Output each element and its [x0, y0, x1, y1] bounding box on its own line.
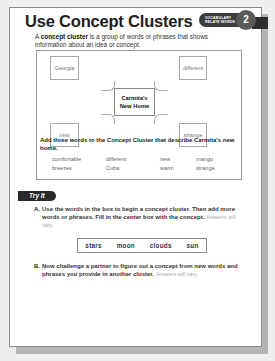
question-a-letter: A. [34, 205, 40, 213]
question-b-text: Now challenge a partner to figure out a … [42, 263, 238, 277]
try-it-heading: Try It [18, 191, 56, 201]
word-bank-item: warm [160, 165, 196, 171]
word-box-item: stars [85, 242, 102, 249]
word-bank-item: breezes [52, 165, 106, 171]
word-bank-item: comfortable [52, 156, 106, 162]
connector-line [154, 114, 168, 124]
word-bank-item: strange [196, 165, 236, 171]
word-bank-item: Cuba [106, 165, 160, 171]
question-b-letter: B. [34, 262, 40, 270]
word-box-item: sun [187, 242, 199, 249]
cluster-node: Georgia [50, 56, 79, 80]
connector-line [101, 114, 115, 124]
word-bank-item: mango [196, 156, 236, 162]
connector-line [154, 81, 168, 91]
cluster-center-node: Carmita's New Home [114, 88, 155, 116]
word-bank-item: new [160, 156, 196, 162]
center-line-2: New Home [115, 102, 154, 110]
page-title: Use Concept Clusters [25, 12, 192, 31]
word-box-item: moon [117, 242, 135, 249]
word-box: stars moon clouds sun [77, 238, 207, 253]
word-box-item: clouds [150, 242, 172, 249]
lesson-number-badge: 2 [236, 10, 256, 30]
question-b-note: Answers will vary. [156, 271, 198, 277]
cluster-node: different [179, 56, 207, 80]
question-b: B. Now challenge a partner to figure out… [34, 262, 239, 278]
intro-term: concept cluster [41, 33, 88, 40]
center-line-1: Carmita's [115, 94, 154, 102]
intro-text: A concept cluster is a group of words or… [35, 33, 235, 49]
word-bank-item: different [106, 156, 160, 162]
connector-line [101, 81, 115, 91]
question-a: A. Use the words in the box to begin a c… [34, 205, 239, 229]
word-bank: comfortable different new mango breezes … [52, 156, 237, 171]
activity-instruction: Add three words to the Concept Cluster t… [40, 137, 240, 152]
